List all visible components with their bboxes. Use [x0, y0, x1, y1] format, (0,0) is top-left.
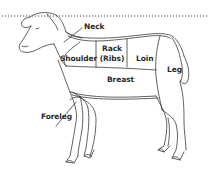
eye	[36, 28, 39, 29]
ear-outline	[21, 17, 31, 28]
hind-leg-outline	[156, 96, 170, 152]
divider-breast	[66, 66, 156, 70]
label-shoulder: Shoulder	[60, 55, 97, 63]
face-outline	[19, 26, 54, 52]
label-rack: Rack (Ribs)	[98, 45, 126, 62]
belly-outline	[70, 92, 156, 97]
lamb-cuts-diagram	[0, 0, 210, 172]
label-foreleg: Foreleg	[41, 113, 72, 121]
label-breast: Breast	[107, 76, 134, 84]
label-leg: Leg	[167, 66, 182, 74]
label-neck: Neck	[84, 23, 104, 31]
label-rack-line1: Rack	[98, 45, 126, 53]
divider-loin-leg	[156, 36, 162, 110]
label-loin: Loin	[136, 55, 153, 63]
label-rack-line2: (Ribs)	[98, 55, 126, 63]
